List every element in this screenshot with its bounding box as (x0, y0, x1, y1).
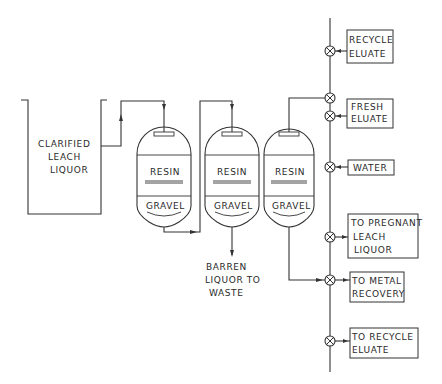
gravel-label-3: GRAVEL (272, 201, 311, 211)
box-connectors (335, 49, 350, 343)
valve-column3-feed[interactable] (325, 93, 335, 103)
fresh-eluate-line-1: FRESH (351, 102, 384, 112)
gravel-label-2: GRAVEL (214, 201, 253, 211)
pipe-manifold-to-column3 (289, 98, 325, 132)
box-to-recycle-eluate: TO RECYCLE ELUATE (350, 328, 418, 358)
box-to-metal-recovery: TO METAL RECOVERY (350, 272, 405, 302)
arrow-up-icon (119, 114, 123, 121)
arrow-down-icon (162, 104, 166, 110)
recycle-eluate-line-1: RECYCLE (349, 35, 393, 45)
pregnant-line-3: LIQUOR (354, 245, 392, 255)
recycle-eluate-line-2: ELUATE (349, 49, 386, 59)
arrow-down-icon (230, 104, 234, 110)
gravel-label-1: GRAVEL (146, 201, 185, 211)
resin-label-2: RESIN (217, 167, 247, 177)
box-to-pregnant-leach-liquor: TO PREGNANT LEACH LIQUOR (348, 214, 423, 258)
pregnant-line-1: TO PREGNANT (350, 218, 423, 228)
box-recycle-eluate: RECYCLE ELUATE (347, 30, 393, 63)
tank-label-line-1: CLARIFIED (38, 139, 90, 149)
tank-label-line-3: LIQUOR (50, 165, 88, 175)
resin-label-3: RESIN (275, 167, 305, 177)
water-label: WATER (353, 163, 387, 173)
feed-pipe (101, 101, 166, 146)
pipe-column3-to-metal-recovery (289, 227, 325, 282)
valve-to-recycle-eluate[interactable] (325, 336, 335, 346)
valve-fresh-eluate[interactable] (325, 111, 335, 121)
arrow-down-icon (230, 250, 234, 257)
valve-to-metal-recovery[interactable] (325, 275, 335, 285)
valve-recycle-eluate[interactable] (325, 46, 335, 56)
valve-water[interactable] (325, 162, 335, 172)
resin-label-1: RESIN (150, 167, 180, 177)
waste-label-line-2: LIQUOR TO (205, 275, 261, 285)
resin-column-3: RESIN GRAVEL (264, 129, 314, 227)
to-recycle-eluate-line-1: TO RECYCLE (351, 332, 414, 342)
arrow-right-icon (316, 278, 323, 282)
clarified-leach-liquor-tank: CLARIFIED LEACH LIQUOR (21, 100, 107, 214)
waste-label-line-3: WASTE (209, 288, 243, 298)
fresh-eluate-line-2: ELUATE (351, 114, 388, 124)
resin-column-1: RESIN GRAVEL (137, 127, 191, 227)
metal-recovery-line-1: TO METAL (351, 276, 402, 286)
box-water: WATER (348, 160, 394, 175)
waste-label-line-1: BARREN (206, 262, 247, 272)
box-fresh-eluate: FRESH ELUATE (347, 99, 393, 128)
resin-column-2: RESIN GRAVEL (205, 127, 259, 227)
arrow-right-icon (190, 230, 197, 234)
barren-liquor-outlet: BARREN LIQUOR TO WASTE (205, 227, 261, 298)
to-recycle-eluate-line-2: ELUATE (352, 345, 389, 355)
process-flow-diagram: CLARIFIED LEACH LIQUOR RESIN GRAVEL RESI… (0, 0, 442, 384)
tank-label-line-2: LEACH (48, 152, 81, 162)
pregnant-line-2: LEACH (353, 232, 386, 242)
valve-to-pregnant-leach-liquor[interactable] (325, 232, 335, 242)
metal-recovery-line-2: RECOVERY (352, 289, 405, 299)
